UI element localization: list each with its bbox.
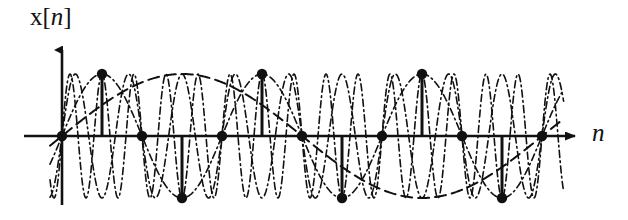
sample-dot xyxy=(217,131,227,141)
sample-dot xyxy=(297,131,307,141)
sample-dot xyxy=(457,131,467,141)
sample-dot xyxy=(97,69,107,79)
sample-dot xyxy=(257,69,267,79)
discrete-signal-figure: x[n] n xyxy=(0,0,628,220)
sample-dot xyxy=(417,69,427,79)
y-axis-label-close-bracket: ] xyxy=(63,3,71,30)
sample-dot xyxy=(137,131,147,141)
y-axis-label-index: n xyxy=(51,3,64,30)
y-axis-label-open-bracket: [ xyxy=(43,3,51,30)
plot-canvas xyxy=(0,0,628,220)
sample-dot xyxy=(497,193,507,203)
x-axis-label: n xyxy=(592,120,605,145)
sample-dot xyxy=(377,131,387,141)
sample-dot xyxy=(537,131,547,141)
sample-dot xyxy=(177,193,187,203)
y-axis-label: x[n] xyxy=(30,4,72,29)
sample-dot xyxy=(57,131,67,141)
sample-dot xyxy=(337,193,347,203)
y-axis-label-func: x xyxy=(30,3,43,30)
